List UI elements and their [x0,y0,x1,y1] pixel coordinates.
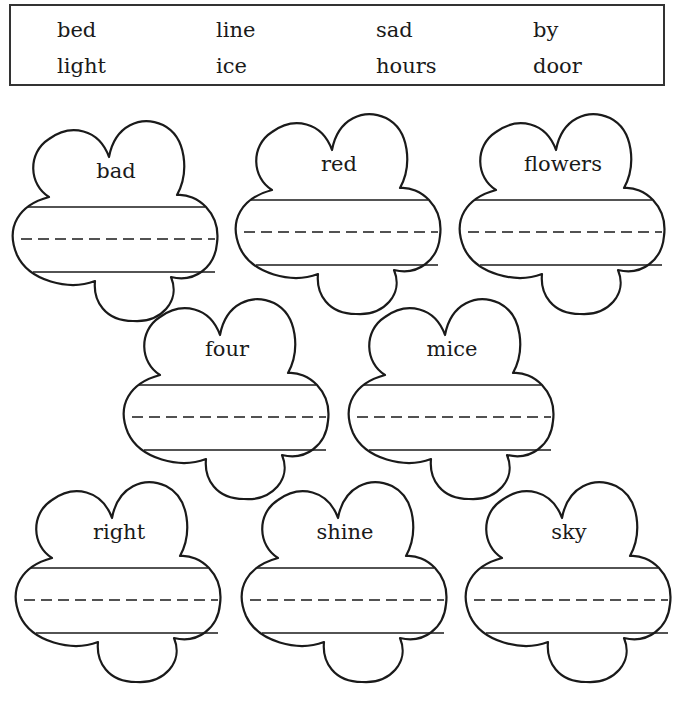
word-bank-item: door [533,54,582,78]
flower-outline-icon [12,476,226,686]
word-bank-item: hours [376,54,437,78]
flower-word: four [120,337,334,361]
flower-card: flowers [456,108,670,318]
flower-card: shine [238,476,452,686]
flower-outline-icon [238,476,452,686]
flower-word: bad [9,159,223,183]
word-bank-item: sad [376,18,413,42]
flower-word: right [12,520,226,544]
word-bank-item: line [216,18,255,42]
word-bank: bed line sad by light ice hours door [9,4,665,86]
page-corner-mark [633,698,667,702]
flower-outline-icon [462,476,676,686]
word-bank-item: light [57,54,106,78]
flower-card: mice [345,293,559,503]
flower-outline-icon [120,293,334,503]
word-bank-item: by [533,18,558,42]
flower-outline-icon [345,293,559,503]
flower-card: red [232,108,446,318]
flower-word: red [232,152,446,176]
flower-card: four [120,293,334,503]
flower-word: mice [345,337,559,361]
flower-word: sky [462,520,676,544]
flower-outline-icon [232,108,446,318]
flower-outline-icon [456,108,670,318]
flower-word: flowers [456,152,670,176]
word-bank-item: ice [216,54,247,78]
flower-card: sky [462,476,676,686]
word-bank-item: bed [57,18,96,42]
flower-card: right [12,476,226,686]
flower-word: shine [238,520,452,544]
